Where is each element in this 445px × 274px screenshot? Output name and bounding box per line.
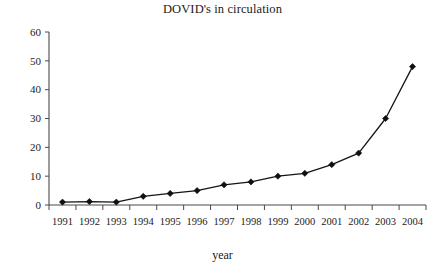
y-tick-label: 60 [30,26,42,38]
data-series [59,64,415,206]
x-tick-label: 1995 [160,216,181,227]
x-axis-title: year [0,248,445,263]
y-axis: 0102030405060 [30,26,49,211]
data-point-marker [221,182,227,188]
x-tick-label: 1997 [214,216,235,227]
series-line [62,67,412,203]
x-tick-label: 2003 [375,216,396,227]
x-tick-label: 1991 [52,216,73,227]
x-tick-label: 2002 [348,216,369,227]
data-point-marker [167,190,173,196]
data-point-marker [194,187,200,193]
y-tick-label: 0 [36,199,42,211]
data-point-marker [275,173,281,179]
x-tick-label: 1999 [267,216,288,227]
data-point-marker [113,199,119,205]
data-point-marker [140,193,146,199]
y-tick-label: 40 [30,83,42,95]
data-point-marker [86,198,92,204]
x-tick-label: 1998 [240,216,261,227]
line-chart-plot: 0102030405060 19911992199319941995199619… [0,0,445,274]
x-axis: 1991199219931994199519961997199819992000… [49,205,426,227]
x-tick-label: 2000 [294,216,315,227]
x-tick-label: 1996 [187,216,208,227]
y-tick-label: 50 [30,55,42,67]
data-point-marker [248,179,254,185]
data-point-marker [302,170,308,176]
x-tick-label: 1992 [79,216,100,227]
data-point-marker [329,162,335,168]
x-tick-label: 1994 [133,216,155,227]
data-point-marker [59,199,65,205]
chart-container: DOVID's in circulation 0102030405060 199… [0,0,445,274]
x-tick-label: 2001 [321,216,342,227]
data-point-marker [409,64,415,70]
y-tick-label: 30 [30,112,42,124]
x-tick-label: 1993 [106,216,127,227]
y-tick-label: 20 [30,141,42,153]
y-tick-label: 10 [30,170,42,182]
x-tick-label: 2004 [402,216,424,227]
